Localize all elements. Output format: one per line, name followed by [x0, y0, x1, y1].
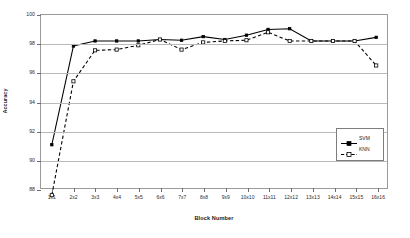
- data-point-knn: [375, 64, 378, 67]
- x-tick-label: 11x11: [263, 195, 276, 200]
- data-point-knn: [288, 39, 291, 42]
- x-tick-mark: [74, 188, 75, 192]
- x-tick-label: 14x14: [328, 195, 342, 200]
- x-tick-label: 8x8: [200, 195, 208, 200]
- x-tick-label: 5x5: [135, 195, 143, 200]
- legend-symbol-knn: [340, 145, 358, 154]
- x-tick-mark: [139, 188, 140, 192]
- y-tick-label: 88: [29, 187, 35, 192]
- legend-item-svm: SVM: [340, 133, 380, 144]
- y-tick-mark: [37, 103, 41, 104]
- x-tick-label: 9x9: [222, 195, 230, 200]
- data-point-knn: [245, 39, 248, 42]
- y-tick-label: 90: [29, 158, 35, 163]
- y-tick-mark: [37, 73, 41, 74]
- gridline: [41, 73, 387, 74]
- data-point-knn: [331, 39, 334, 42]
- y-tick-mark: [37, 44, 41, 45]
- x-tick-mark: [335, 188, 336, 192]
- data-point-knn: [223, 39, 226, 42]
- data-point-svm: [202, 35, 204, 37]
- x-axis-title: Block Number: [194, 215, 233, 221]
- x-tick-label: 3x3: [91, 195, 99, 200]
- data-point-svm: [51, 144, 53, 146]
- series-line-svm: [52, 29, 376, 145]
- x-tick-mark: [52, 188, 53, 192]
- legend-item-knn: KNN: [340, 144, 380, 155]
- x-tick-label: 1x1: [48, 195, 56, 200]
- y-tick-mark: [37, 15, 41, 16]
- legend-symbol-svm: [340, 134, 358, 143]
- gridline: [41, 103, 387, 104]
- x-tick-label: 16x16: [371, 195, 385, 200]
- x-tick-label: 13x13: [306, 195, 320, 200]
- data-point-knn: [115, 48, 118, 51]
- x-tick-label: 4x4: [113, 195, 121, 200]
- x-tick-label: 7x7: [178, 195, 186, 200]
- legend-label-svm: SVM: [359, 136, 370, 141]
- data-point-svm: [72, 45, 74, 47]
- data-point-svm: [267, 28, 269, 30]
- x-tick-mark: [291, 188, 292, 192]
- x-tick-mark: [182, 188, 183, 192]
- y-tick-label: 98: [29, 42, 35, 47]
- y-tick-mark: [37, 161, 41, 162]
- x-tick-mark: [226, 188, 227, 192]
- x-tick-mark: [95, 188, 96, 192]
- x-tick-label: 12x12: [284, 195, 298, 200]
- y-tick-label: 94: [29, 100, 35, 105]
- x-tick-mark: [313, 188, 314, 192]
- data-point-svm: [137, 40, 139, 42]
- data-point-knn: [310, 39, 313, 42]
- data-point-knn: [93, 49, 96, 52]
- data-point-knn: [158, 38, 161, 41]
- y-tick-label: 96: [29, 71, 35, 76]
- x-tick-mark: [204, 188, 205, 192]
- x-tick-mark: [356, 188, 357, 192]
- x-tick-label: 6x6: [157, 195, 165, 200]
- x-tick-mark: [269, 188, 270, 192]
- y-axis-title: Accuracy: [2, 88, 8, 113]
- data-point-svm: [180, 39, 182, 41]
- x-tick-label: 2x2: [70, 195, 78, 200]
- data-point-svm: [288, 28, 290, 30]
- x-tick-mark: [117, 188, 118, 192]
- data-point-knn: [72, 80, 75, 83]
- y-tick-label: 100: [26, 12, 35, 17]
- y-tick-mark: [37, 190, 41, 191]
- chart-legend: SVM KNN: [336, 128, 384, 161]
- y-tick-label: 92: [29, 129, 35, 134]
- data-point-knn: [266, 31, 269, 34]
- data-point-knn: [353, 39, 356, 42]
- x-tick-mark: [248, 188, 249, 192]
- x-tick-label: 10x10: [241, 195, 255, 200]
- y-tick-mark: [37, 132, 41, 133]
- data-point-svm: [375, 36, 377, 38]
- plot-area: 8890929496981001x12x23x34x45x56x67x78x89…: [40, 14, 388, 189]
- data-point-knn: [180, 48, 183, 51]
- series-line-knn: [52, 32, 376, 195]
- caption-strip: [0, 224, 410, 238]
- data-series-overlay: [41, 15, 387, 188]
- chart-figure: Accuracy Block Number 8890929496981001x1…: [0, 0, 410, 238]
- data-point-svm: [115, 40, 117, 42]
- data-point-svm: [94, 40, 96, 42]
- x-tick-mark: [161, 188, 162, 192]
- x-tick-mark: [378, 188, 379, 192]
- x-tick-label: 15x15: [350, 195, 364, 200]
- data-point-svm: [245, 34, 247, 36]
- legend-label-knn: KNN: [359, 147, 370, 152]
- gridline: [41, 44, 387, 45]
